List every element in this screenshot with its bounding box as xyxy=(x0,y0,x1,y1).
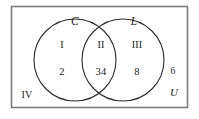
venn-diagram-figure: C L I 2 II 34 III 8 IV 6 U xyxy=(0,0,199,119)
region-label-i: I xyxy=(60,40,64,50)
region-label-ii: II xyxy=(97,40,104,50)
region-label-iii: III xyxy=(132,40,143,50)
set-label-c: C xyxy=(71,16,79,28)
outside-count: 6 xyxy=(171,67,176,77)
region-value-iii: 8 xyxy=(134,67,139,78)
region-value-ii: 34 xyxy=(96,67,107,78)
universe-label-u: U xyxy=(170,87,178,98)
venn-diagram-canvas xyxy=(0,0,199,119)
set-label-l: L xyxy=(131,16,138,28)
region-label-iv: IV xyxy=(22,90,33,100)
region-value-i: 2 xyxy=(59,67,64,78)
